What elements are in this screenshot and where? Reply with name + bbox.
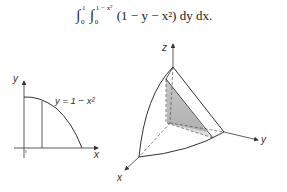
y-axis-label-3d: y bbox=[261, 134, 266, 145]
y-axis-3d bbox=[224, 132, 258, 140]
figures bbox=[0, 0, 287, 192]
solid-plot-3d bbox=[125, 44, 258, 170]
x-axis-label-2d: x bbox=[94, 149, 99, 160]
curve-label: y = 1 − x² bbox=[55, 95, 95, 106]
x-axis-label-3d: x bbox=[117, 172, 122, 183]
x-axis-3d bbox=[125, 157, 139, 170]
region-plot-2d bbox=[14, 81, 98, 158]
y-axis-label-2d: y bbox=[13, 73, 18, 84]
z-axis-label-3d: z bbox=[162, 42, 167, 53]
